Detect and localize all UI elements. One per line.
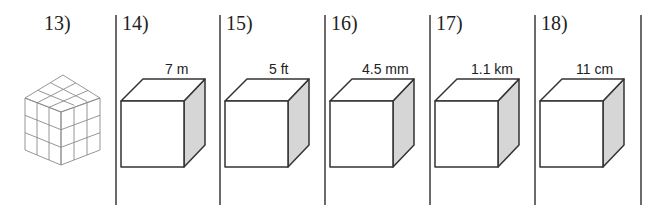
cube-icon	[435, 79, 519, 167]
unit-cube-icon	[25, 75, 100, 165]
figures	[0, 0, 660, 214]
cube-icon	[330, 79, 414, 167]
cube-icon	[540, 79, 624, 167]
cube-icon	[225, 79, 309, 167]
cube-icon	[121, 79, 205, 167]
